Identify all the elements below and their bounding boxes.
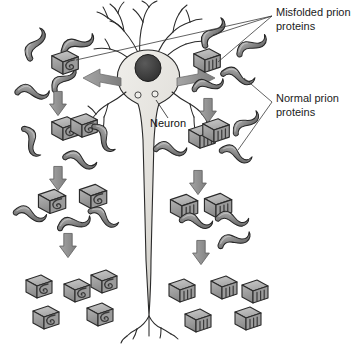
- label-normal-line1: Normal prion: [276, 92, 339, 104]
- neuron-nucleus: [135, 55, 161, 82]
- misfolded-prion: [79, 184, 106, 208]
- misfolded-prion: [26, 275, 52, 298]
- misfolded-prion: [169, 279, 195, 302]
- misfolded-prion: [52, 51, 79, 74]
- misfolded-prion: [194, 49, 221, 72]
- misfolded-prion: [185, 309, 211, 332]
- label-neuron: Neuron: [150, 117, 186, 129]
- misfolded-prion: [87, 303, 113, 326]
- misfolded-prion: [91, 270, 117, 293]
- label-misfolded-line2: proteins: [276, 20, 316, 32]
- diagram-canvas: Misfolded prion proteins Normal prion pr…: [0, 0, 359, 349]
- soma-vesicle: [135, 92, 141, 98]
- misfolded-prion: [242, 280, 268, 303]
- misfolded-prion: [211, 276, 237, 299]
- misfolded-prion: [38, 189, 65, 213]
- misfolded-prion: [33, 306, 59, 329]
- misfolded-prion: [235, 307, 261, 330]
- misfolded-prion: [64, 279, 90, 302]
- label-normal-line2: proteins: [276, 106, 316, 118]
- soma-vesicle: [152, 91, 158, 97]
- prion-propagation-diagram: Misfolded prion proteins Normal prion pr…: [0, 0, 359, 349]
- label-misfolded-line1: Misfolded prion: [276, 6, 351, 18]
- misfolded-prion: [203, 119, 230, 142]
